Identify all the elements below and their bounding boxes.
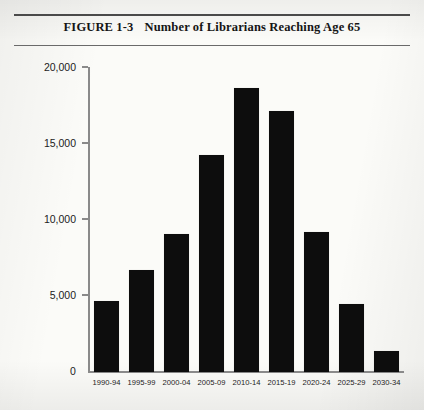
bar: [129, 270, 154, 372]
bar-slot: [194, 67, 229, 372]
bar-slot: [124, 67, 159, 372]
bar: [164, 234, 189, 372]
x-axis-tick-label: 2030-34: [373, 378, 401, 387]
y-axis-tick: [82, 142, 88, 144]
bar: [304, 232, 329, 372]
bar-slot: [369, 67, 404, 372]
x-axis-tick-label: 2005-09: [198, 378, 226, 387]
bar: [339, 304, 364, 372]
x-axis-tick-label: 2010-14: [233, 378, 261, 387]
y-axis-tick-label: 0: [70, 365, 76, 377]
y-axis-tick-label: 20,000: [44, 61, 76, 73]
bar: [94, 301, 119, 372]
x-axis-tick-label: 2020-24: [303, 378, 331, 387]
bar: [199, 155, 224, 372]
bar-slot: [299, 67, 334, 372]
bar-slot: [229, 67, 264, 372]
bar-slot: [264, 67, 299, 372]
x-axis-tick-label: 1995-99: [128, 378, 156, 387]
bar-slot: [159, 67, 194, 372]
bar-chart: 20,00015,00010,0005,0000 1990-941995-992…: [0, 0, 424, 410]
y-axis-tick: [82, 218, 88, 220]
x-axis-tick-label: 2025-29: [338, 378, 366, 387]
plot-area: [89, 67, 404, 372]
bar-slot: [89, 67, 124, 372]
bar: [374, 351, 399, 372]
y-axis-tick-label: 5,000: [50, 289, 76, 301]
y-axis-tick: [82, 294, 88, 296]
x-axis-tick-label: 2015-19: [268, 378, 296, 387]
bar-slot: [334, 67, 369, 372]
y-axis-tick-label: 10,000: [44, 213, 76, 225]
x-axis-tick-label: 1990-94: [93, 378, 121, 387]
bar-series: [89, 67, 404, 372]
bar: [269, 111, 294, 372]
y-axis-tick-label: 15,000: [44, 137, 76, 149]
bar: [234, 88, 259, 372]
y-axis-tick: [82, 66, 88, 68]
x-axis-tick-label: 2000-04: [163, 378, 191, 387]
